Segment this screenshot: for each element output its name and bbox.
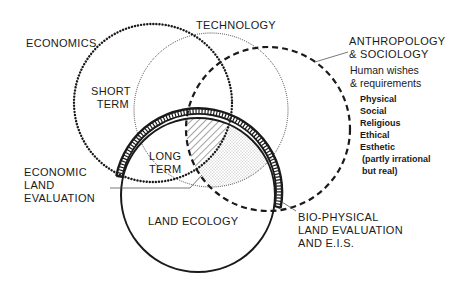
bio-physical-line2: LAND EVALUATION	[298, 224, 403, 237]
requirement-social: Social	[360, 105, 431, 117]
long-term-line2: TERM	[149, 163, 181, 176]
requirement-physical: Physical	[360, 93, 431, 105]
requirement-religious: Religious	[360, 117, 431, 129]
requirement-note-1: (partly irrational	[362, 153, 431, 165]
requirements-list: Physical Social Religious Ethical Esthet…	[360, 93, 431, 177]
human-wishes-label: Human wishes & requirements	[350, 64, 421, 89]
economics-label: ECONOMICS	[26, 37, 97, 50]
short-term-line1: SHORT	[91, 85, 131, 98]
economic-land-evaluation-line1: ECONOMIC	[24, 166, 95, 179]
bio-physical-line1: BIO-PHYSICAL	[298, 211, 403, 224]
bio-physical-label: BIO-PHYSICAL LAND EVALUATION AND E.I.S.	[298, 211, 403, 251]
requirement-note-2: but real)	[362, 165, 431, 177]
long-term-label: LONG TERM	[149, 150, 181, 176]
requirement-esthetic: Esthetic	[360, 141, 431, 153]
technology-label: TECHNOLOGY	[196, 19, 276, 32]
anthropology-label: ANTHROPOLOGY & SOCIOLOGY	[349, 35, 446, 61]
economic-land-evaluation-line2: LAND	[24, 179, 95, 192]
bio-physical-line3: AND E.I.S.	[298, 237, 403, 250]
long-term-leader	[190, 175, 202, 188]
economic-land-evaluation-line3: EVALUATION	[24, 192, 95, 205]
requirement-ethical: Ethical	[360, 129, 431, 141]
long-term-line1: LONG	[149, 150, 181, 163]
anthropology-line2: & SOCIOLOGY	[349, 48, 446, 61]
economic-land-evaluation-label: ECONOMIC LAND EVALUATION	[24, 166, 95, 206]
human-wishes-line2: & requirements	[350, 77, 421, 90]
short-term-label: SHORT TERM	[91, 85, 131, 111]
land-ecology-label: LAND ECOLOGY	[148, 215, 238, 228]
short-term-line2: TERM	[95, 98, 131, 111]
human-wishes-line1: Human wishes	[350, 64, 421, 77]
anthropology-line1: ANTHROPOLOGY	[349, 35, 446, 48]
anthropology-leader	[315, 52, 348, 62]
